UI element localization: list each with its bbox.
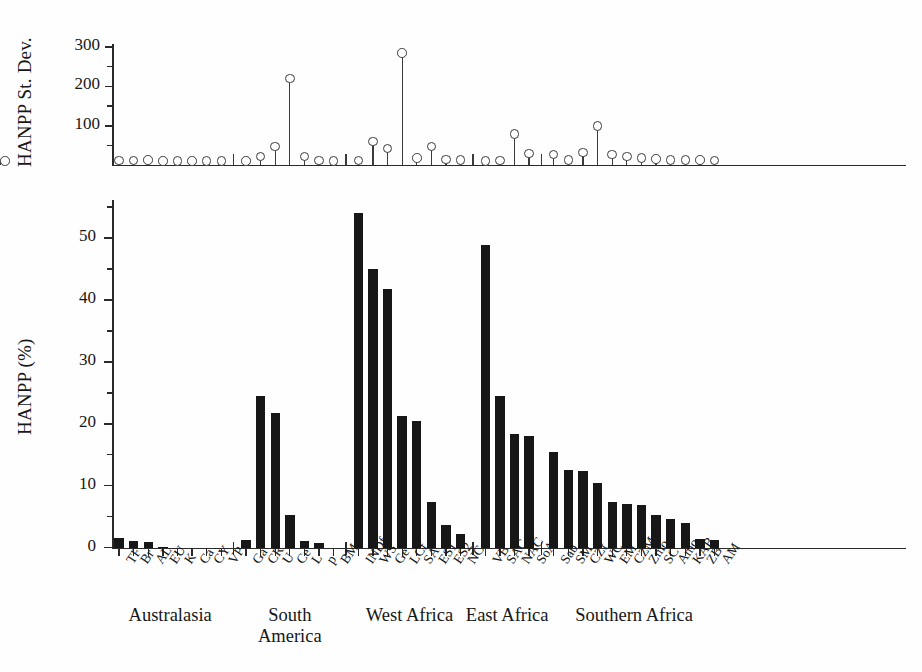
bar [271, 413, 280, 548]
stdev-marker-circle [241, 156, 251, 166]
bar [383, 289, 392, 548]
stdev-marker-circle [524, 149, 534, 159]
stdev-y-tick-label: 100 [54, 114, 100, 134]
stdev-marker-circle [114, 156, 124, 166]
stdev-marker-circle [622, 152, 632, 162]
hanpp-y-tick-label: 30 [50, 350, 96, 370]
x-tick-label: p [323, 552, 340, 567]
stdev-marker-circle [256, 152, 266, 162]
stdev-baseline [112, 165, 906, 167]
group-separator-tick [472, 154, 473, 165]
stdev-marker-circle [300, 152, 310, 162]
hanpp-y-tick [104, 299, 112, 301]
hanpp-y-minor-tick [107, 206, 113, 208]
hanpp-y-tick-label: 0 [50, 536, 96, 556]
bar [564, 470, 573, 548]
stdev-marker-circle [143, 155, 153, 165]
group-separator-tick [541, 154, 542, 165]
stdev-stem [289, 79, 290, 166]
hanpp-y-minor-tick [107, 516, 113, 518]
stdev-marker-circle [158, 156, 168, 166]
hanpp-y-tick-label: 40 [50, 288, 96, 308]
stdev-marker-circle [187, 156, 197, 166]
bar [481, 245, 490, 547]
stdev-marker-circle [285, 74, 295, 84]
stdev-y-minor-tick [107, 105, 112, 106]
stdev-marker-circle [441, 155, 451, 165]
stdev-y-tick [105, 125, 112, 127]
stdev-marker-circle [510, 129, 520, 139]
stdev-marker-circle [173, 156, 183, 166]
bar [397, 416, 406, 548]
stdev-marker-circle [383, 144, 393, 154]
group-separator-tick [345, 154, 346, 165]
bar [427, 502, 436, 547]
hanpp-panel: 01020304050 TFBrALEUKCaCYVPGaCRUCeLpBMIN… [0, 190, 922, 672]
stdev-marker-circle [481, 156, 491, 166]
stdev-y-minor-tick [107, 145, 112, 146]
stdev-marker-circle [270, 142, 280, 152]
group-label-southern-africa: Southern Africa [544, 605, 724, 626]
hanpp-figure: HANPP St. Dev. HANPP (%) 100200300 01020… [0, 0, 922, 672]
bar [593, 483, 602, 548]
stdev-marker-circle [637, 153, 647, 163]
bar [114, 538, 123, 547]
bar [524, 436, 533, 548]
stdev-marker-circle [329, 156, 339, 166]
hanpp-y-tick-label: 10 [50, 474, 96, 494]
stdev-marker-circle [564, 155, 574, 165]
bar [510, 434, 519, 547]
stdev-marker-circle [0, 156, 10, 166]
x-tick [333, 548, 334, 556]
stdev-marker-circle [666, 155, 676, 165]
hanpp-y-minor-tick [107, 330, 113, 332]
x-tick-label: AM [718, 540, 743, 567]
stdev-marker-circle [427, 142, 437, 152]
bar [285, 515, 294, 548]
bar [495, 396, 504, 548]
stdev-marker-circle [593, 121, 603, 131]
stdev-y-tick [105, 86, 112, 88]
stdev-y-minor-tick [107, 66, 112, 67]
stdev-y-tick [105, 46, 112, 48]
stdev-marker-circle [651, 154, 661, 164]
stdev-y-tick-label: 300 [54, 35, 100, 55]
stdev-marker-circle [314, 156, 324, 166]
x-tick [118, 548, 119, 556]
hanpp-y-tick [104, 361, 112, 363]
stdev-marker-circle [397, 48, 407, 58]
hanpp-y-minor-tick [107, 392, 113, 394]
stdev-marker-circle [202, 156, 212, 166]
stdev-y-tick-label: 200 [54, 74, 100, 94]
stdev-marker-circle [578, 148, 588, 158]
stdev-panel: 100200300 [0, 0, 922, 190]
stdev-marker-circle [368, 137, 378, 147]
bar [549, 452, 558, 548]
group-separator-tick [233, 154, 234, 165]
stdev-marker-circle [456, 155, 466, 165]
bar [412, 421, 421, 548]
hanpp-y-axis [112, 200, 114, 549]
stdev-y-axis [112, 44, 114, 166]
bar [256, 396, 265, 548]
stdev-marker-circle [695, 155, 705, 165]
hanpp-y-tick [104, 423, 112, 425]
hanpp-y-minor-tick [107, 268, 113, 270]
hanpp-y-minor-tick [107, 454, 113, 456]
stdev-marker-circle [217, 156, 227, 166]
hanpp-y-tick-label: 50 [50, 226, 96, 246]
hanpp-y-tick [104, 485, 112, 487]
bar [354, 213, 363, 547]
stdev-marker-circle [495, 156, 505, 166]
stdev-marker-circle [549, 150, 559, 160]
stdev-marker-circle [681, 155, 691, 165]
stdev-stem [597, 126, 598, 165]
stdev-marker-circle [607, 150, 617, 160]
bar [241, 540, 250, 547]
stdev-stem [402, 53, 403, 165]
hanpp-y-tick-label: 20 [50, 412, 96, 432]
hanpp-y-tick [104, 237, 112, 239]
stdev-marker-circle [412, 153, 422, 163]
bar [368, 269, 377, 548]
hanpp-y-tick [104, 547, 112, 549]
